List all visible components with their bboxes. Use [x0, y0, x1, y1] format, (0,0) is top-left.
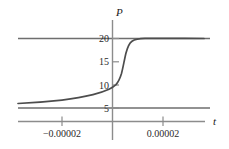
plot-figure: 20 15 10 5 −0.00002 0.00002 P t — [0, 0, 229, 149]
x-tick-label-negative: −0.00002 — [43, 128, 81, 139]
y-tick-label-5: 5 — [104, 103, 109, 114]
x-axis-label: t — [213, 115, 217, 127]
y-tick-label-20: 20 — [99, 33, 109, 44]
logistic-curve — [18, 38, 204, 103]
y-tick-label-15: 15 — [99, 56, 109, 67]
y-tick-label-10: 10 — [99, 80, 109, 91]
x-tick-label-positive: 0.00002 — [147, 128, 180, 139]
y-axis-label: P — [115, 6, 123, 18]
plot-canvas: 20 15 10 5 −0.00002 0.00002 P t — [0, 0, 229, 149]
